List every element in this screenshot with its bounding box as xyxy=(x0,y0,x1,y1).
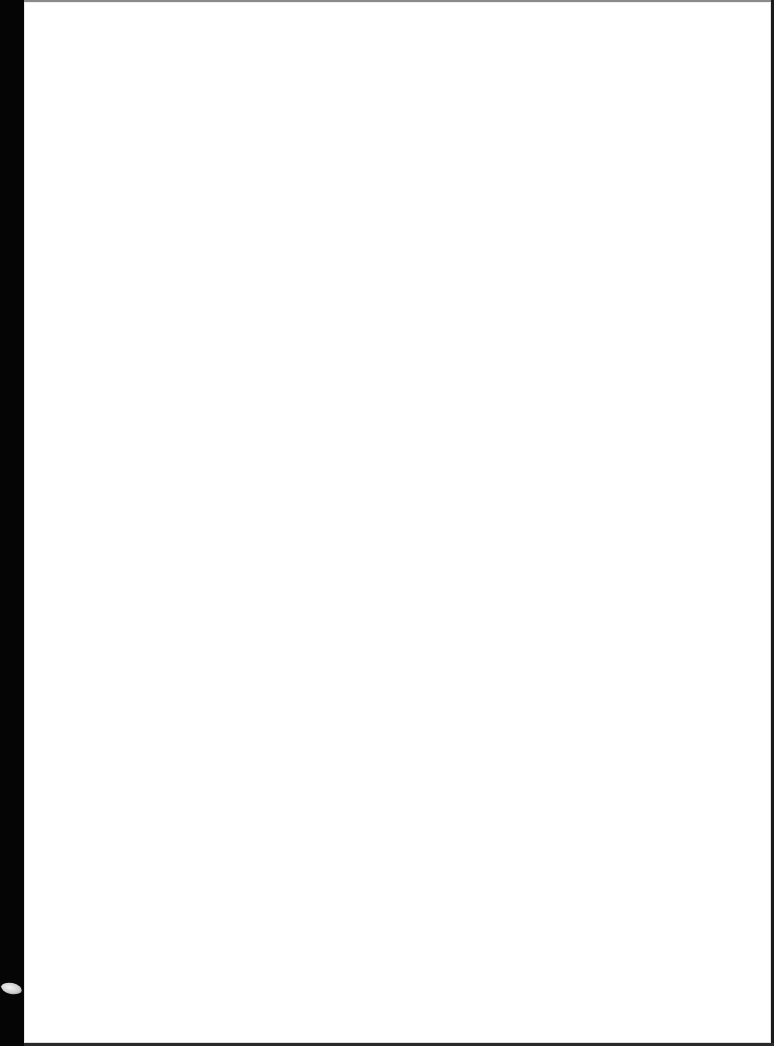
scanned-document xyxy=(0,0,774,1046)
blank-page xyxy=(24,2,771,1043)
scanner-left-margin xyxy=(0,0,24,1046)
